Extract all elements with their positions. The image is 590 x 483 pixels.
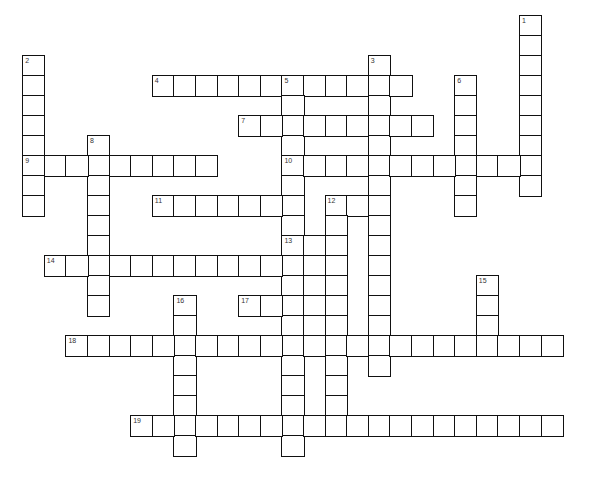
cell-input[interactable] <box>131 156 152 176</box>
cell-input[interactable] <box>239 296 260 316</box>
crossword-cell[interactable] <box>433 335 456 357</box>
cell-input[interactable] <box>455 116 476 136</box>
cell-input[interactable] <box>542 336 563 356</box>
crossword-cell[interactable] <box>22 95 45 117</box>
crossword-cell[interactable] <box>173 415 196 437</box>
cell-input[interactable] <box>477 276 498 296</box>
crossword-cell[interactable] <box>519 415 542 437</box>
cell-input[interactable] <box>455 416 476 436</box>
cell-input[interactable] <box>282 116 303 136</box>
cell-input[interactable] <box>196 336 217 356</box>
cell-input[interactable] <box>239 196 260 216</box>
crossword-cell[interactable] <box>325 415 348 437</box>
crossword-cell[interactable] <box>303 335 326 357</box>
cell-input[interactable] <box>23 156 44 176</box>
cell-input[interactable] <box>174 156 195 176</box>
crossword-cell[interactable] <box>173 395 196 417</box>
cell-input[interactable] <box>347 196 368 216</box>
cell-input[interactable] <box>520 76 541 96</box>
cell-input[interactable] <box>369 56 390 76</box>
cell-input[interactable] <box>390 116 411 136</box>
cell-input[interactable] <box>282 356 303 376</box>
cell-input[interactable] <box>261 296 282 316</box>
cell-input[interactable] <box>412 156 433 176</box>
crossword-cell[interactable] <box>281 215 304 237</box>
crossword-cell[interactable] <box>454 175 477 197</box>
crossword-cell[interactable] <box>519 55 542 77</box>
crossword-cell[interactable] <box>281 335 304 357</box>
cell-input[interactable] <box>326 76 347 96</box>
crossword-cell[interactable] <box>433 415 456 437</box>
cell-input[interactable] <box>282 436 303 456</box>
crossword-cell[interactable]: 17 <box>238 295 261 317</box>
crossword-cell[interactable] <box>281 115 304 137</box>
cell-input[interactable] <box>282 96 303 116</box>
cell-input[interactable] <box>304 156 325 176</box>
cell-input[interactable] <box>498 336 519 356</box>
crossword-cell[interactable] <box>217 335 240 357</box>
crossword-cell[interactable] <box>44 155 67 177</box>
cell-input[interactable] <box>520 56 541 76</box>
cell-input[interactable] <box>326 416 347 436</box>
crossword-cell[interactable]: 9 <box>22 155 45 177</box>
crossword-cell[interactable] <box>454 195 477 217</box>
cell-input[interactable] <box>239 76 260 96</box>
cell-input[interactable] <box>174 376 195 396</box>
crossword-cell[interactable] <box>22 75 45 97</box>
cell-input[interactable] <box>477 316 498 336</box>
cell-input[interactable] <box>66 156 87 176</box>
cell-input[interactable] <box>282 376 303 396</box>
crossword-cell[interactable] <box>87 335 110 357</box>
cell-input[interactable] <box>520 136 541 156</box>
crossword-cell[interactable] <box>346 75 369 97</box>
cell-input[interactable] <box>326 256 347 276</box>
crossword-cell[interactable] <box>411 335 434 357</box>
cell-input[interactable] <box>390 416 411 436</box>
crossword-cell[interactable] <box>368 415 391 437</box>
crossword-cell[interactable] <box>325 155 348 177</box>
crossword-cell[interactable] <box>260 255 283 277</box>
cell-input[interactable] <box>520 156 541 176</box>
cell-input[interactable] <box>369 116 390 136</box>
cell-input[interactable] <box>520 36 541 56</box>
cell-input[interactable] <box>282 176 303 196</box>
crossword-cell[interactable] <box>87 295 110 317</box>
cell-input[interactable] <box>239 116 260 136</box>
cell-input[interactable] <box>174 396 195 416</box>
cell-input[interactable] <box>261 256 282 276</box>
crossword-cell[interactable] <box>454 335 477 357</box>
cell-input[interactable] <box>153 336 174 356</box>
cell-input[interactable] <box>347 156 368 176</box>
cell-input[interactable] <box>218 336 239 356</box>
crossword-cell[interactable]: 6 <box>454 75 477 97</box>
cell-input[interactable] <box>498 416 519 436</box>
crossword-cell[interactable] <box>346 415 369 437</box>
crossword-cell[interactable] <box>454 155 477 177</box>
crossword-cell[interactable] <box>389 415 412 437</box>
cell-input[interactable] <box>369 156 390 176</box>
crossword-cell[interactable]: 15 <box>476 275 499 297</box>
crossword-cell[interactable] <box>195 255 218 277</box>
cell-input[interactable] <box>347 76 368 96</box>
crossword-cell[interactable] <box>411 155 434 177</box>
cell-input[interactable] <box>23 56 44 76</box>
crossword-cell[interactable] <box>368 295 391 317</box>
crossword-cell[interactable] <box>22 115 45 137</box>
cell-input[interactable] <box>261 116 282 136</box>
crossword-cell[interactable]: 14 <box>44 255 67 277</box>
cell-input[interactable] <box>261 416 282 436</box>
crossword-cell[interactable] <box>195 155 218 177</box>
crossword-cell[interactable] <box>368 155 391 177</box>
crossword-cell[interactable]: 11 <box>152 195 175 217</box>
crossword-cell[interactable] <box>281 395 304 417</box>
crossword-cell[interactable] <box>497 155 520 177</box>
crossword-cell[interactable] <box>497 415 520 437</box>
cell-input[interactable] <box>23 196 44 216</box>
cell-input[interactable] <box>326 356 347 376</box>
cell-input[interactable] <box>282 396 303 416</box>
cell-input[interactable] <box>196 416 217 436</box>
cell-input[interactable] <box>196 256 217 276</box>
crossword-cell[interactable] <box>238 75 261 97</box>
cell-input[interactable] <box>174 416 195 436</box>
cell-input[interactable] <box>261 196 282 216</box>
